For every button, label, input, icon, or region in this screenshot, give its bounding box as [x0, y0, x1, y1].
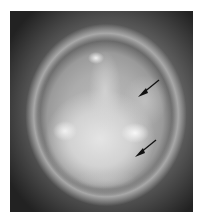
arrow-upper — [138, 80, 159, 97]
annotation-layer — [10, 11, 193, 212]
arrow-lower — [135, 140, 156, 157]
otoscopic-photo — [10, 11, 193, 212]
